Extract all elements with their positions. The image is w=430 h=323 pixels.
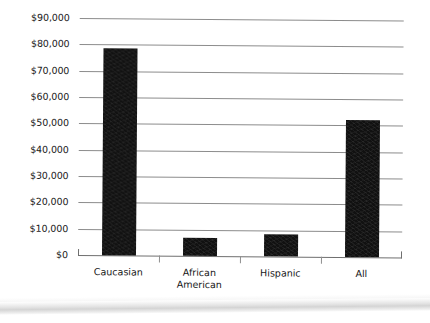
bar-group <box>2 0 421 3</box>
y-axis-tick-label: $40,000 <box>0 143 69 155</box>
x-axis-category-label: African American <box>159 267 240 291</box>
x-axis-tick <box>321 257 322 264</box>
bar <box>182 238 216 256</box>
x-axis-category-label: Caucasian <box>78 266 159 278</box>
y-axis-tick-label: $60,000 <box>0 90 69 102</box>
x-axis-category-label: Hispanic <box>240 267 321 279</box>
bar <box>344 120 379 257</box>
y-axis-tick-label: $20,000 <box>0 196 68 208</box>
y-axis-corner-tick <box>78 249 79 256</box>
plot-area: $0$10,000$20,000$30,000$40,000$50,000$60… <box>0 0 421 292</box>
bar <box>263 235 297 257</box>
y-axis-tick-labels: $0$10,000$20,000$30,000$40,000$50,000$60… <box>2 0 421 3</box>
x-axis-category-label: All <box>321 268 402 280</box>
gridline-group <box>2 0 421 3</box>
bar <box>101 48 137 256</box>
gridline <box>80 18 404 21</box>
x-axis-right-tick <box>401 251 402 258</box>
x-axis-category-labels: CaucasianAfrican AmericanHispanicAll <box>2 0 421 3</box>
x-axis-tick <box>240 256 241 263</box>
y-axis-tick-label: $70,000 <box>0 64 69 76</box>
y-axis-tick-label: $30,000 <box>0 169 69 181</box>
y-axis-tick-label: $90,000 <box>0 11 70 23</box>
x-axis-tick-group <box>2 0 421 3</box>
y-axis-tick-label: $50,000 <box>0 117 69 129</box>
y-axis-tick-label: $10,000 <box>0 222 68 234</box>
y-axis-tick-label: $80,000 <box>0 38 70 50</box>
x-axis-tick <box>159 256 160 263</box>
y-axis-tick-label: $0 <box>0 248 68 260</box>
page-scan-edge-band <box>0 298 430 315</box>
